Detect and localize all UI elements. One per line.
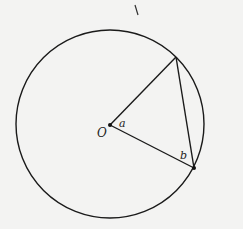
center-label: O <box>97 126 107 140</box>
diagram-canvas: O a b <box>0 0 243 229</box>
stray-mark <box>135 5 138 15</box>
angle-label-b: b <box>180 149 187 162</box>
center-point <box>108 123 112 127</box>
circle-diagram: O a b <box>0 0 243 229</box>
angle-label-a: a <box>119 117 126 130</box>
bottom-right-point <box>192 166 196 170</box>
radius-top <box>110 57 176 125</box>
